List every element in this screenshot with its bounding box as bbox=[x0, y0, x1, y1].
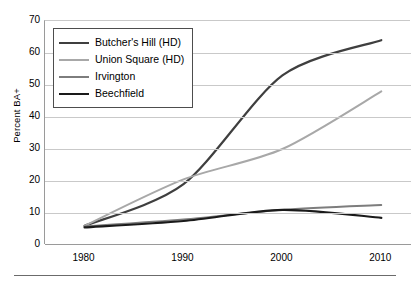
chart-legend: Butcher's Hill (HD)Union Square (HD)Irvi… bbox=[53, 28, 193, 108]
y-tick-label: 60 bbox=[16, 47, 40, 57]
chart-figure: Percent BA+ 010203040506070 198019902000… bbox=[0, 0, 415, 288]
legend-swatch-icon bbox=[59, 59, 89, 61]
y-tick-label: 40 bbox=[16, 111, 40, 121]
legend-swatch-icon bbox=[59, 42, 89, 44]
footer-divider bbox=[14, 275, 396, 276]
y-tick-label: 70 bbox=[16, 15, 40, 25]
legend-swatch-icon bbox=[59, 76, 89, 78]
x-tick-label: 1990 bbox=[157, 253, 207, 263]
legend-swatch-icon bbox=[59, 93, 89, 95]
y-tick-label: 0 bbox=[16, 239, 40, 249]
y-tick-label: 30 bbox=[16, 143, 40, 153]
gridline bbox=[45, 117, 411, 118]
legend-label: Beechfield bbox=[95, 88, 144, 99]
legend-item: Butcher's Hill (HD) bbox=[59, 34, 184, 51]
series-line bbox=[85, 91, 382, 225]
legend-label: Irvington bbox=[95, 71, 135, 82]
legend-label: Union Square (HD) bbox=[95, 54, 184, 65]
legend-label: Butcher's Hill (HD) bbox=[95, 37, 181, 48]
gridline bbox=[45, 213, 411, 214]
gridline bbox=[45, 244, 411, 245]
x-tick-label: 2000 bbox=[256, 253, 306, 263]
y-axis-tick-labels: 010203040506070 bbox=[14, 0, 40, 288]
y-tick-label: 10 bbox=[16, 207, 40, 217]
x-tick-label: 2010 bbox=[355, 253, 405, 263]
gridline bbox=[45, 149, 411, 150]
x-tick-label: 1980 bbox=[59, 253, 109, 263]
legend-item: Union Square (HD) bbox=[59, 51, 184, 68]
y-tick-label: 20 bbox=[16, 175, 40, 185]
y-tick-label: 50 bbox=[16, 79, 40, 89]
legend-item: Irvington bbox=[59, 68, 184, 85]
legend-item: Beechfield bbox=[59, 85, 184, 102]
gridline bbox=[45, 181, 411, 182]
